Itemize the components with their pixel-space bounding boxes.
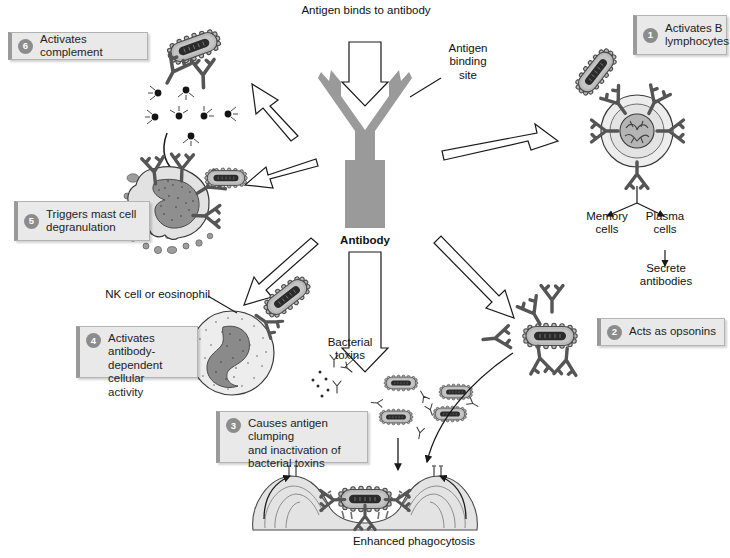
callout-text-4: Activates antibody- dependent cellular a… [108, 332, 189, 399]
secrete-line-2: antibodies [627, 275, 705, 288]
phagocyte-group [253, 466, 478, 530]
callout-1-line-2: lymphocytes [665, 35, 729, 48]
callout-number-4: 4 [86, 333, 101, 348]
label-secrete-antibodies: Secrete antibodies [627, 262, 705, 289]
callout-3-line-2: and inactivation of [248, 444, 359, 457]
callout-text-3: Causes antigen clumping and inactivation… [248, 417, 359, 471]
label-bacterial-toxins: Bacterial toxins [316, 336, 384, 363]
callout-number-5: 5 [24, 214, 39, 229]
callout-4-line-1: Activates antibody- [108, 332, 189, 359]
bacterial-toxins-line-1: Bacterial [316, 336, 384, 349]
arrow-to-opsonins [434, 236, 514, 318]
bacterial-toxins-line-2: toxins [316, 349, 384, 362]
antibody-functions-diagram: 6 Activates complement 5 Triggers mast c… [0, 0, 730, 558]
label-nk-cell-or-eosinophil: NK cell or eosinophil [78, 288, 210, 301]
curved-arrow-to-phagocyte [427, 353, 513, 462]
binding-site-line-3: site [438, 69, 498, 82]
callout-number-1: 1 [643, 28, 658, 43]
callout-5-line-1: Triggers mast cell [46, 208, 136, 221]
label-antigen-binds-to-antibody: Antigen binds to antibody [286, 4, 446, 17]
label-plasma-cells: Plasma cells [637, 210, 693, 237]
label-memory-cells: Memory cells [578, 210, 636, 237]
binding-site-line-2: binding [438, 55, 498, 68]
callout-3-antigen-clumping[interactable]: 3 Causes antigen clumping and inactivati… [216, 411, 368, 463]
arrow-to-mastcell [245, 159, 318, 188]
callout-2-acts-as-opsonins[interactable]: 2 Acts as opsonins [597, 318, 725, 346]
arrow-to-complement [252, 84, 298, 141]
callout-4-line-3: activity [108, 386, 189, 399]
callout-1-activates-b-lymphocytes[interactable]: 1 Activates B lymphocytes [633, 15, 727, 55]
callout-number-6: 6 [18, 39, 33, 54]
callout-1-line-1: Activates B [665, 22, 729, 35]
b-cell-nucleus [620, 114, 654, 148]
callout-text-2: Acts as opsonins [629, 325, 716, 338]
complement-proteins [145, 86, 238, 146]
plasma-line-1: Plasma [637, 210, 693, 223]
callout-5-triggers-mast-cell[interactable]: 5 Triggers mast cell degranulation [14, 201, 150, 241]
arrow-to-blymphocyte [442, 124, 558, 160]
memory-line-2: cells [578, 223, 636, 236]
complement-bacterium-group [157, 26, 224, 89]
diagram-graphics [0, 0, 730, 558]
nk-label-leader [208, 296, 237, 313]
plasma-line-2: cells [637, 223, 693, 236]
callout-4-adcc[interactable]: 4 Activates antibody- dependent cellular… [76, 326, 198, 378]
memory-line-1: Memory [578, 210, 636, 223]
binding-site-line-1: Antigen [438, 42, 498, 55]
toxin-dots [312, 371, 330, 398]
callout-4-line-2: dependent cellular [108, 359, 189, 386]
arrow-antigen-to-antibody [342, 42, 388, 106]
callout-number-3: 3 [226, 418, 241, 433]
b-lymphocyte-group [571, 44, 684, 188]
callout-3-line-1: Causes antigen clumping [248, 417, 359, 444]
antigen-clump-group [371, 375, 480, 439]
label-antigen-binding-site: Antigen binding site [438, 42, 498, 82]
callout-5-line-2: degranulation [46, 221, 136, 234]
callout-3-line-3: bacterial toxins [248, 457, 359, 470]
callout-text-6: Activates complement [40, 33, 139, 60]
label-enhanced-phagocytosis: Enhanced phagocytosis [344, 535, 484, 548]
callout-text-5: Triggers mast cell degranulation [46, 208, 136, 235]
label-antibody: Antibody [330, 234, 400, 247]
callout-6-activates-complement[interactable]: 6 Activates complement [8, 32, 148, 60]
callout-text-1: Activates B lymphocytes [665, 22, 729, 49]
callout-number-2: 2 [607, 325, 622, 340]
secrete-line-1: Secrete [627, 262, 705, 275]
binding-site-leader [410, 78, 441, 97]
